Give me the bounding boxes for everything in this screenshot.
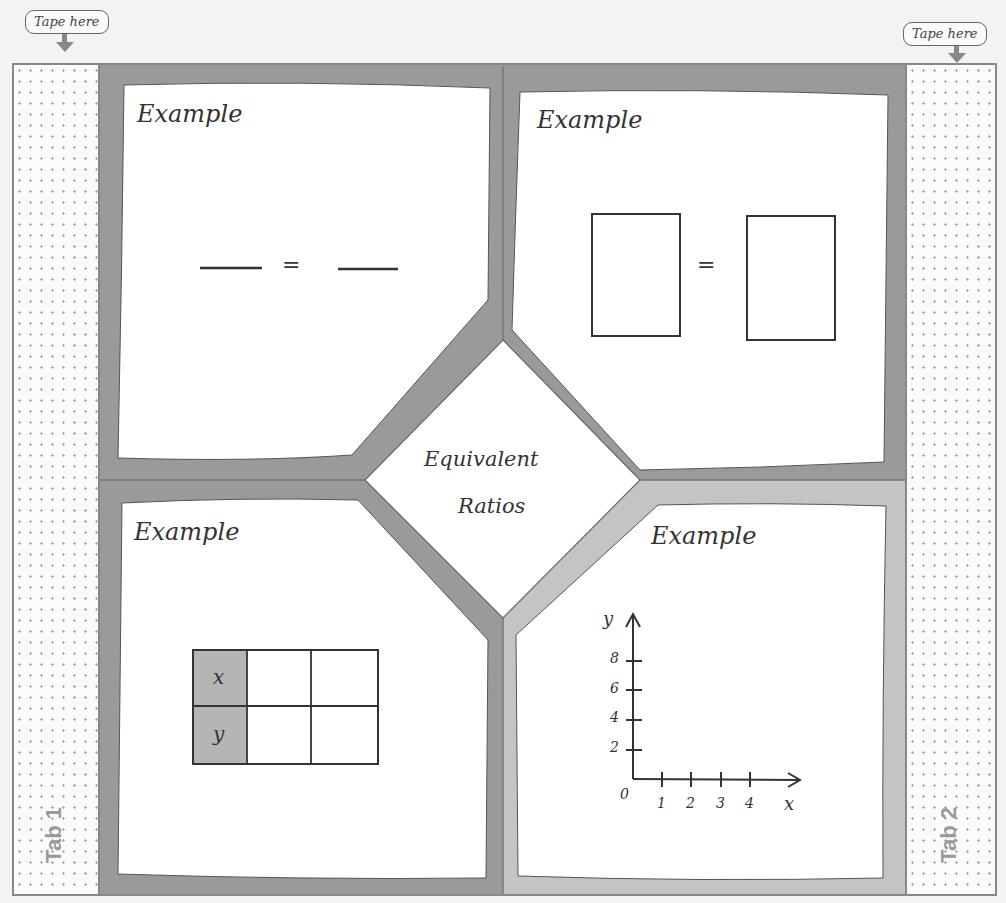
x-tick-4: 4 [745, 795, 754, 811]
x-tick-2: 2 [686, 795, 695, 811]
y-tick-6: 6 [610, 680, 619, 696]
equals-sign: = [282, 252, 300, 277]
y-tick-8: 8 [610, 650, 619, 666]
y-axis-label: y [603, 608, 613, 629]
x-tick-1: 1 [657, 795, 666, 811]
panel-title-bottom-left: Example [134, 518, 239, 546]
x-axis-label: x [784, 793, 794, 814]
origin-label: 0 [620, 786, 629, 802]
y-tick-2: 2 [610, 739, 619, 755]
table-row-label-x: x [213, 665, 224, 689]
y-tick-4: 4 [610, 709, 619, 725]
table-row-label-y: y [213, 722, 224, 746]
panel-title-bottom-right: Example [651, 522, 756, 550]
center-title-line1: Equivalent [424, 447, 539, 471]
panel-title-top-left: Example [137, 100, 242, 128]
x-tick-3: 3 [716, 795, 725, 811]
panel-title-top-right: Example [537, 106, 642, 134]
center-title-line2: Ratios [458, 494, 525, 518]
equals-sign: = [697, 252, 715, 277]
